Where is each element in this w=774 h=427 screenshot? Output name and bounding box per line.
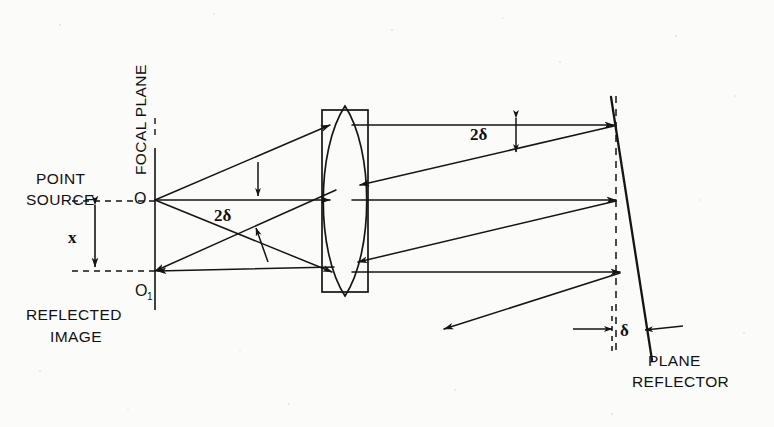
plane-reflector-label-line2: REFLECTOR [632, 373, 729, 390]
angle-upper-label: 2δ [470, 125, 488, 144]
return-rays [155, 126, 620, 329]
ray-out-lower [155, 200, 332, 272]
lens-mount-frame [322, 110, 368, 292]
angle-lower-label: 2δ [214, 206, 232, 225]
ray-return-middle-to-image [157, 267, 334, 271]
focal-plane-label: FOCAL PLANE [132, 64, 149, 175]
angle-annotation-lower [256, 162, 268, 262]
tilt-arrow-right [645, 326, 683, 330]
plane-reflector-surface [611, 97, 652, 360]
figure-canvas: FOCAL PLANE POINT SOURCE O O 1 REFLECTED… [0, 0, 774, 427]
ray-return-upper-to-image [155, 190, 336, 271]
reflected-image-label-line2: IMAGE [50, 328, 102, 345]
plane-reflector-label-line1: PLANE [648, 352, 701, 369]
optical-diagram-svg: FOCAL PLANE POINT SOURCE O O 1 REFLECTED… [0, 0, 774, 427]
outgoing-rays [155, 125, 620, 272]
point-source-marker-label: O [134, 190, 146, 207]
separation-label: x [68, 228, 77, 247]
ray-return-middle [358, 201, 616, 262]
ray-out-upper [155, 125, 330, 200]
reflected-image-label-line1: REFLECTED [26, 306, 122, 323]
reflected-image-marker-subscript: 1 [147, 291, 153, 302]
reflected-image-marker-label: O [135, 282, 147, 299]
point-source-label-line1: POINT [36, 170, 85, 187]
ray-return-lower [444, 273, 620, 329]
point-source-label-line2: SOURCE [26, 191, 95, 208]
tilt-label: δ [620, 321, 629, 340]
plane-reflector-assembly [611, 96, 652, 360]
